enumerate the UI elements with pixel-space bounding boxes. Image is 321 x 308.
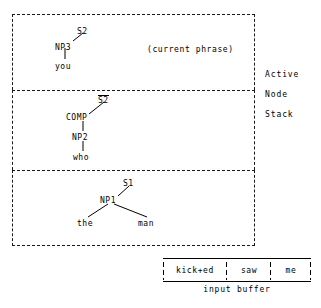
tree-node-np1: NP1: [100, 196, 116, 205]
input-buffer-label: input buffer: [163, 285, 311, 294]
parser-state-diagram: S2 NP3 you (current phrase) S2 COMP NP2 …: [0, 0, 321, 308]
tree-leaf-the: the: [77, 219, 93, 228]
input-buffer-cell-0-text: kick+ed: [176, 266, 214, 275]
stack-panel-2: [12, 90, 255, 170]
stack-label-line-active: Active: [265, 70, 299, 79]
tree-leaf-you: you: [55, 62, 71, 71]
tree-node-s-bar-2: S2: [98, 95, 109, 105]
input-buffer-cell-0: kick+ed: [163, 259, 227, 281]
input-buffer: kick+ed saw me: [163, 258, 311, 282]
stack-label-line-stack: Stack: [265, 110, 294, 119]
tree-leaf-man: man: [138, 219, 154, 228]
input-buffer-cell-2-text: me: [286, 266, 297, 275]
input-buffer-cell-1: saw: [227, 259, 271, 281]
input-buffer-cell-1-text: saw: [241, 266, 257, 275]
tree-leaf-who: who: [73, 153, 89, 162]
buffer-divider-icon: [310, 262, 311, 280]
buffer-divider-icon: [163, 262, 164, 280]
tree-node-comp: COMP: [66, 113, 87, 122]
tree-node-s2: S2: [77, 27, 88, 36]
tree-node-s1: S1: [123, 179, 134, 188]
current-phrase-annotation: (current phrase): [147, 45, 234, 54]
tree-node-s-bar-2-label: S2: [98, 95, 109, 105]
input-buffer-cell-2: me: [271, 259, 311, 281]
tree-node-np2: NP2: [72, 133, 88, 142]
stack-label-line-node: Node: [265, 90, 288, 99]
tree-node-np3: NP3: [55, 43, 71, 52]
